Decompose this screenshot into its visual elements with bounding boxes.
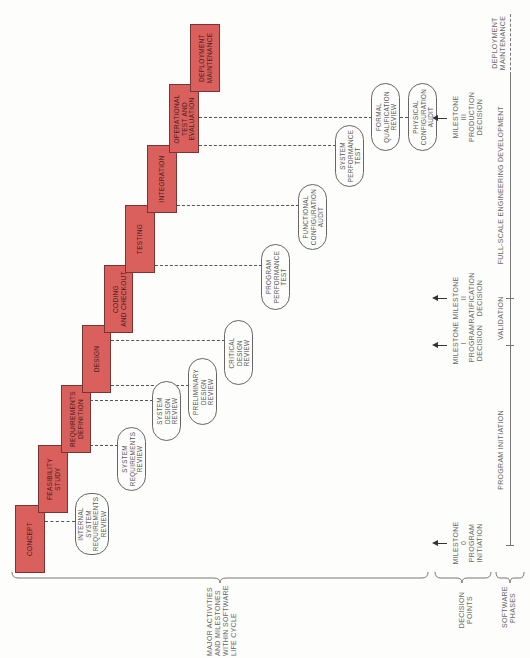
phase-validation: VALIDATION [497, 300, 505, 340]
row-label-major-activities: MAJOR ACTIVITIES AND MILESTONES WITHIN S… [206, 590, 238, 656]
review-system-performance-test: SYSTEM PERFORMANCE TEST [335, 125, 364, 187]
milestone-0-label: MILESTONE 0 PROGRAM INITIATION [452, 514, 484, 572]
software-phases-brace [494, 570, 528, 584]
activity-testing: TESTING [125, 205, 155, 273]
activity-label: REQUIREMENTS DEFINITION [69, 391, 84, 447]
connector-fca [177, 205, 299, 206]
milestone-3-arrow-icon [437, 118, 447, 119]
milestone-0-arrow-icon [437, 543, 447, 544]
phase-tick-fsed-start [506, 298, 514, 299]
phase-deployment-maintenance: DEPLOYMENT MAINTENANCE [491, 14, 507, 72]
activity-label: FEASIBILITY STUDY [46, 458, 61, 500]
activity-label: TESTING [136, 224, 144, 254]
activity-coding-and-checkout: CODING AND CHECKOUT [104, 265, 133, 333]
activities-brace [10, 570, 430, 584]
phase-tick-validation-start [506, 345, 514, 346]
review-label: INTERNAL SYSTEM REQUIREMENTS REVIEW [77, 497, 107, 551]
activity-concept: CONCEPT [15, 505, 45, 573]
review-system-requirements: SYSTEM REQUIREMENTS REVIEW [117, 427, 146, 491]
software-life-cycle-diagram: CONCEPT FEASIBILITY STUDY REQUIREMENTS D… [0, 0, 530, 658]
review-preliminary-design: PRELIMINARY DESIGN REVIEW [188, 358, 217, 425]
activity-label: OPERATIONAL TEST AND EVALUATION [173, 94, 196, 143]
review-label: PROGRAM PERFORMANCE TEST [264, 251, 287, 303]
connector-fqr [199, 117, 372, 118]
connector-isrr [45, 521, 75, 522]
row-label-software-phases: SOFTWARE PHASES [501, 588, 517, 628]
connector-pca [400, 117, 408, 118]
milestone-3-label: MILESTONE III PRODUCTION DECISION [452, 88, 484, 146]
review-system-design: SYSTEM DESIGN REVIEW [152, 381, 181, 441]
connector-cdr [111, 340, 225, 341]
review-label: FUNCTIONAL CONFIGURATION AUDIT [301, 189, 324, 245]
activity-integration: INTEGRATION [147, 145, 177, 213]
phase-tick-start [506, 545, 514, 546]
review-functional-configuration-audit: FUNCTIONAL CONFIGURATION AUDIT [298, 184, 327, 250]
activity-feasibility-study: FEASIBILITY STUDY [38, 445, 68, 513]
review-label: PRELIMINARY DESIGN REVIEW [191, 369, 214, 415]
connector-sdr [90, 400, 153, 401]
activity-operational-test-and-evaluation: OPERATIONAL TEST AND EVALUATION [169, 84, 199, 153]
milestone-2-arrow-icon [437, 298, 447, 299]
activity-design: DESIGN [82, 325, 111, 393]
phase-timeline-dashed [510, 14, 511, 75]
milestone-1-arrow-icon [437, 345, 447, 346]
review-label: SYSTEM PERFORMANCE TEST [338, 130, 361, 182]
phase-program-initiation: PROGRAM INITIATION [497, 390, 505, 510]
decision-points-brace [433, 570, 493, 584]
connector-srr [90, 445, 118, 446]
milestone-2-label: MILESTONE II RATIFICATION DECISION [452, 266, 484, 330]
phase-timeline [510, 75, 511, 545]
row-label-decision-points: DECISION POINTS [458, 590, 474, 630]
review-label: SYSTEM REQUIREMENTS REVIEW [120, 432, 143, 486]
activity-label: DEPLOYMENT MAINTENANCE [198, 33, 213, 84]
phase-full-scale-engineering-development: FULL-SCALE ENGINEERING DEVELOPMENT [497, 100, 505, 270]
review-critical-design: CRITICAL DESIGN REVIEW [224, 320, 253, 385]
review-label: SYSTEM DESIGN REVIEW [155, 397, 178, 425]
activity-deployment-maintenance: DEPLOYMENT MAINTENANCE [190, 24, 220, 92]
activity-label: DESIGN [93, 346, 101, 373]
review-program-performance-test: PROGRAM PERFORMANCE TEST [261, 244, 290, 310]
connector-spt [199, 145, 336, 146]
activity-label: CONCEPT [26, 522, 34, 556]
activity-label: CODING AND CHECKOUT [111, 271, 126, 327]
review-internal-system-requirements: INTERNAL SYSTEM REQUIREMENTS REVIEW [75, 493, 109, 555]
review-label: FORMAL QUALIFICATION REVIEW [374, 91, 397, 143]
activity-label: INTEGRATION [158, 155, 166, 202]
review-formal-qualification: FORMAL QUALIFICATION REVIEW [371, 83, 400, 151]
activity-requirements-definition: REQUIREMENTS DEFINITION [61, 385, 91, 453]
connector-ppt [155, 265, 262, 266]
review-label: PHYSICAL CONFIGURATION AUDIT [411, 89, 434, 145]
review-label: CRITICAL DESIGN REVIEW [227, 337, 250, 368]
